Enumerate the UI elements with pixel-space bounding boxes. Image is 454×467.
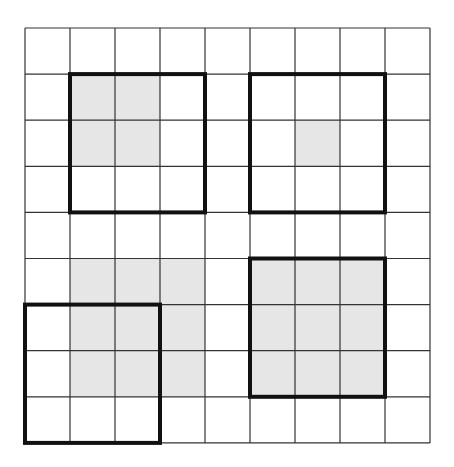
- shaded-cell: [115, 305, 160, 351]
- shaded-cell: [250, 351, 295, 397]
- shaded-cells: [70, 74, 385, 397]
- shaded-cell: [160, 259, 205, 305]
- shaded-cell: [70, 74, 115, 120]
- shaded-cell: [295, 351, 340, 397]
- shaded-cell: [250, 305, 295, 351]
- shaded-cell: [70, 259, 115, 305]
- shaded-cell: [160, 351, 205, 397]
- shaded-cell: [160, 305, 205, 351]
- shaded-cell: [115, 351, 160, 397]
- shaded-cell: [70, 305, 115, 351]
- grid-diagram: [0, 0, 454, 467]
- shaded-cell: [70, 351, 115, 397]
- shaded-cell: [295, 259, 340, 305]
- shaded-cell: [295, 305, 340, 351]
- shaded-cell: [250, 259, 295, 305]
- shaded-cell: [340, 305, 385, 351]
- shaded-cell: [115, 259, 160, 305]
- shaded-cell: [115, 74, 160, 120]
- shaded-cell: [340, 351, 385, 397]
- shaded-cell: [295, 120, 340, 166]
- shaded-cell: [115, 120, 160, 166]
- shaded-cell: [70, 120, 115, 166]
- shaded-cell: [340, 259, 385, 305]
